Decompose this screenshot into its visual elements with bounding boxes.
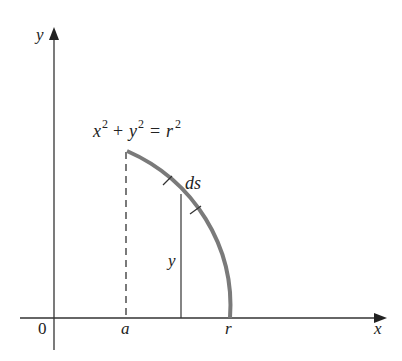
svg-text:+: + (113, 121, 123, 141)
ds-label: ds (185, 173, 201, 193)
svg-text:r: r (166, 121, 174, 141)
svg-text:y: y (127, 121, 137, 141)
svg-text:2: 2 (138, 117, 144, 131)
arc-length-diagram: y x 0 a r x 2 + y 2 = r 2 ds y (0, 0, 402, 361)
r-label: r (225, 319, 232, 338)
x-axis-label: x (373, 319, 382, 338)
svg-text:2: 2 (175, 117, 181, 131)
y-axis-arrow-icon (49, 27, 59, 40)
origin-label: 0 (38, 319, 47, 338)
svg-text:=: = (150, 121, 160, 141)
svg-text:2: 2 (102, 117, 108, 131)
height-y-label: y (166, 251, 176, 270)
a-label: a (121, 319, 130, 338)
circle-arc (127, 151, 230, 318)
y-axis-label: y (34, 25, 44, 44)
svg-text:x: x (92, 121, 101, 141)
circle-equation: x 2 + y 2 = r 2 (92, 117, 181, 141)
